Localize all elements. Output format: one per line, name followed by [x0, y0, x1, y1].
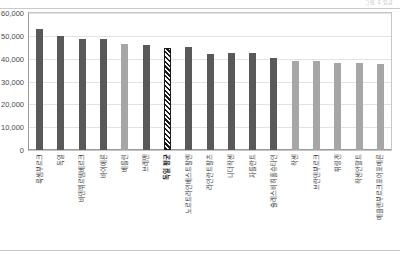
y-axis-tick-label: 60,000 — [0, 9, 24, 18]
x-label-slot: 작센안할트 — [348, 152, 369, 252]
x-axis-tick-label: 튀링겐 — [335, 154, 341, 172]
x-axis-tick-label: 메클렌부르크포어포메른 — [377, 154, 383, 220]
x-label-slot: 노르트라인베스트팔렌 — [178, 152, 199, 252]
bar[interactable] — [100, 39, 107, 150]
x-label-slot: 니더작센 — [221, 152, 242, 252]
bar-slot — [135, 13, 156, 150]
bar-slot — [221, 13, 242, 150]
x-axis-tick-label: 바이에른 — [100, 154, 106, 178]
x-axis-tick-label: 바덴뷔르템베르크 — [79, 154, 85, 202]
bar-slot — [114, 13, 135, 150]
y-axis-tick-label: 0 — [0, 146, 24, 155]
x-label-slot: 브레멘 — [135, 152, 156, 252]
bar-slot — [50, 13, 71, 150]
x-label-slot: 바덴뷔르템베르크 — [72, 152, 93, 252]
bar-slot — [327, 13, 348, 150]
x-axis-tick-label: 브레멘 — [143, 154, 149, 172]
header-note: 그림 1 임금 — [365, 0, 394, 5]
bar[interactable] — [185, 47, 192, 150]
bar-slot — [199, 13, 220, 150]
x-label-slot: 베를린 — [114, 152, 135, 252]
x-label-slot: 독일 — [50, 152, 71, 252]
bar-slot — [29, 13, 50, 150]
bar-slot — [285, 13, 306, 150]
x-axis-tick-label: 노르트라인베스트팔렌 — [186, 154, 192, 214]
bar-slot — [348, 13, 369, 150]
bar-slot — [306, 13, 327, 150]
x-label-slot: 슐레스비히홀슈타인 — [263, 152, 284, 252]
x-label-slot: 메클렌부르크포어포메른 — [370, 152, 391, 252]
bar-slot — [72, 13, 93, 150]
x-label-slot: 룩셈부르크 — [29, 152, 50, 252]
bar-slot — [93, 13, 114, 150]
bar[interactable] — [79, 39, 86, 150]
x-axis-tick-label: 라인란트팔츠 — [207, 154, 213, 190]
y-axis-tick-label: 30,000 — [0, 77, 24, 86]
y-axis-tick-label: 50,000 — [0, 31, 24, 40]
x-axis-tick-label: 베를린 — [122, 154, 128, 172]
bar[interactable] — [143, 45, 150, 150]
bar[interactable] — [121, 44, 128, 150]
x-axis-tick-label: 작센안할트 — [356, 154, 362, 184]
chart-plot-area — [29, 13, 391, 150]
x-axis-tick-label: 룩셈부르크 — [36, 154, 42, 184]
x-label-slot: 작센 — [285, 152, 306, 252]
header-divider — [0, 8, 400, 9]
x-label-slot: 튀링겐 — [327, 152, 348, 252]
x-axis-tick-label: 자를란트 — [249, 154, 255, 178]
bar[interactable] — [207, 54, 214, 150]
x-axis-tick-label: 작센 — [292, 154, 298, 166]
y-axis-tick-label: 40,000 — [0, 54, 24, 63]
y-axis-tick-label: 10,000 — [0, 123, 24, 132]
x-axis-tick-label: 독일 평균 — [164, 154, 170, 180]
bar[interactable] — [377, 64, 384, 150]
bar[interactable] — [270, 58, 277, 150]
bar-slot — [157, 13, 178, 150]
x-label-slot: 독일 평균 — [157, 152, 178, 252]
x-axis-category-labels: 룩셈부르크독일바덴뷔르템베르크바이에른베를린브레멘독일 평균노르트라인베스트팔렌… — [29, 152, 391, 252]
footer-divider — [0, 250, 400, 251]
bar-slot — [263, 13, 284, 150]
x-axis-tick-label: 니더작센 — [228, 154, 234, 178]
x-label-slot: 라인란트팔츠 — [199, 152, 220, 252]
x-axis-tick-label: 브란덴부르크 — [313, 154, 319, 190]
y-axis-tick-label: 20,000 — [0, 100, 24, 109]
bar-series — [29, 13, 391, 150]
x-label-slot: 바이에른 — [93, 152, 114, 252]
chart-page: 그림 1 임금 60,00050,00040,00030,00020,00010… — [0, 0, 400, 255]
x-label-slot: 브란덴부르크 — [306, 152, 327, 252]
bar[interactable] — [334, 63, 341, 150]
bar[interactable] — [57, 36, 64, 150]
bar[interactable] — [164, 48, 171, 150]
bar-slot — [370, 13, 391, 150]
bar[interactable] — [249, 53, 256, 150]
bar-slot — [242, 13, 263, 150]
bar-slot — [178, 13, 199, 150]
bar[interactable] — [313, 61, 320, 151]
bar[interactable] — [356, 63, 363, 150]
x-axis-tick-label: 독일 — [58, 154, 64, 166]
bar[interactable] — [292, 61, 299, 150]
bar[interactable] — [228, 53, 235, 150]
bar[interactable] — [36, 29, 43, 150]
x-label-slot: 자를란트 — [242, 152, 263, 252]
x-axis-tick-label: 슐레스비히홀슈타인 — [271, 154, 277, 208]
